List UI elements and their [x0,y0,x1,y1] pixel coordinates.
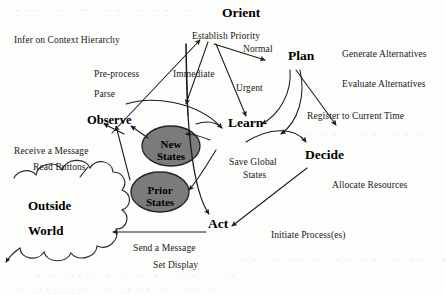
label-establish-priority: Establish Priority [192,32,260,42]
edge-decide-to-learn-save-global [246,131,306,142]
node-decide[interactable]: Decide [305,148,344,162]
edge-plan-to-learn-right [281,70,302,134]
ellipse-label-new-states-line2: States [152,151,190,163]
label-allocate-resources: Allocate Resources [332,181,407,191]
ellipse-label-new-states-line1: New [152,139,190,151]
ellipse-label-new-states: New States [152,139,190,162]
edge-prior-to-observe [116,126,130,180]
label-parse: Parse [94,90,115,100]
label-evaluate-alternatives: Evaluate Alternatives [342,80,426,90]
ellipse-label-prior-states: Prior States [141,185,179,208]
node-learn[interactable]: Learn [228,116,263,130]
ellipse-label-prior-states-line2: States [141,197,179,209]
label-register-to-current-time: Register to Current Time [307,112,404,122]
label-save-global: Save Global [229,158,277,168]
label-normal: Normal [243,45,273,55]
label-receive-a-message: Receive a Message [14,147,89,157]
scan-artifact-mid-right: ·· ··· - · ·· ·· - · ··· -· ·· [304,130,425,139]
scan-artifact-bottom-a: ·· - · ··· · -·· ··· ·· - ··· ·· -· · ··… [240,256,446,265]
cloud-label-line1: Outside [28,198,71,214]
cloud-label-line2: World [28,223,63,239]
diagram-canvas: Orient Plan Learn Decide Act Observe New… [0,0,446,295]
label-urgent: Urgent [236,84,263,94]
node-orient[interactable]: Orient [222,6,260,20]
edge-new-to-observe [131,126,148,138]
label-infer-on-context-hierarchy: Infer on Context Hierarchy [14,36,120,46]
edge-orient-urgent-to-learn [216,44,246,116]
label-initiate-processes: Initiate Process(es) [271,231,346,241]
label-read-buttons: Read Buttons [33,163,86,173]
edge-observe-arc-to-learn-start [126,100,222,128]
ellipse-label-prior-states-line1: Prior [141,185,179,197]
node-plan[interactable]: Plan [288,49,314,63]
scan-artifact-top: · - ·· - ·· ··· · -· ·· ·· - ·· ··· ·· -… [8,6,198,15]
edge-arc-into-learn [196,122,222,128]
label-set-display: Set Display [153,261,198,271]
label-pre-process: Pre-process [94,70,139,80]
label-save-global-states: States [243,171,266,181]
label-generate-alternatives: Generate Alternatives [342,50,427,60]
node-observe[interactable]: Observe [87,114,131,127]
scan-artifact-bottom-b: · -· ·· ··· - ·· · -· ··· ·· · - ·· ··· … [30,272,236,281]
scan-artifact-bottom-c: ·· ··· - ·· ·· -· ·· ··· · - ·· - ··· ··… [18,285,221,294]
node-act[interactable]: Act [208,217,228,231]
edge-plan-to-learn-left [262,70,290,124]
label-immediate: Immediate [173,70,215,80]
label-send-a-message: Send a Message [133,244,196,254]
